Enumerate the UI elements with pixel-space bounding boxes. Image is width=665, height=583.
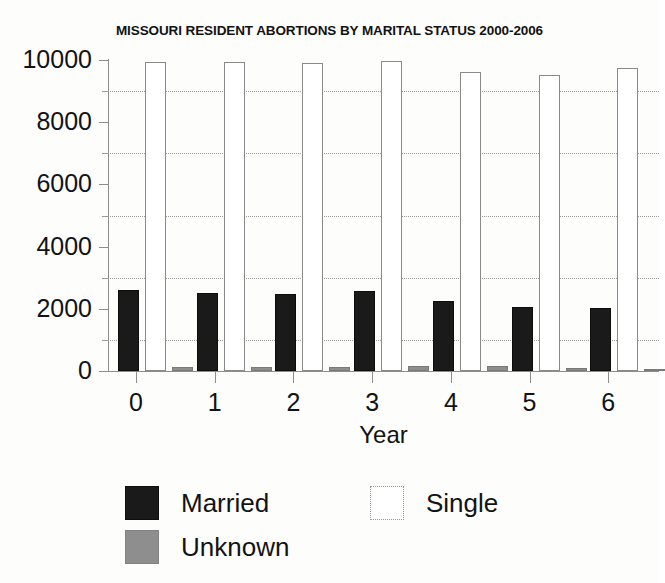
bar-married-year-6 [590, 308, 611, 371]
bar-unknown-year-6 [644, 369, 665, 371]
x-axis-tick [372, 372, 373, 383]
bar-single-year-4 [460, 72, 481, 371]
bar-unknown-year-5 [566, 368, 587, 371]
y-axis-tick-labels: 0200040006000800010000 [0, 60, 100, 371]
bar-unknown-year-2 [329, 367, 350, 371]
y-axis-major-tick [99, 371, 108, 372]
y-axis-major-tick [99, 309, 108, 310]
legend-row: MarriedSingle [0, 486, 659, 530]
y-axis-major-tick [99, 122, 108, 123]
y-axis-major-tick [99, 60, 108, 61]
single-swatch [370, 486, 404, 520]
bar-unknown-year-1 [251, 367, 272, 371]
legend-label: Married [181, 488, 269, 518]
x-axis-tick [136, 372, 137, 383]
x-axis-tick-label: 6 [588, 388, 628, 416]
y-axis-minor-tick [102, 91, 108, 92]
y-axis-tick-label: 4000 [0, 234, 92, 259]
bar-single-year-3 [381, 61, 402, 371]
x-axis-ticks [108, 372, 659, 384]
x-axis-tick-label: 0 [116, 388, 156, 416]
x-axis-tick-label: 1 [195, 388, 235, 416]
bar-single-year-5 [539, 75, 560, 371]
legend-entry-single: Single [370, 486, 498, 520]
y-axis-major-tick [99, 247, 108, 248]
y-axis-tick-label: 6000 [0, 171, 92, 196]
x-axis-tick [451, 372, 452, 383]
bar-single-year-1 [224, 62, 245, 371]
x-axis-tick-label: 2 [273, 388, 313, 416]
y-axis-tick-label: 10000 [0, 47, 92, 72]
x-axis-title: Year [108, 421, 659, 449]
legend-row: Unknown [0, 530, 659, 574]
legend-entry-married: Married [125, 486, 269, 520]
y-axis-minor-tick [102, 216, 108, 217]
y-axis-minor-tick [102, 153, 108, 154]
bar-single-year-2 [302, 63, 323, 371]
x-axis-tick-labels: 0123456 [108, 388, 659, 420]
y-axis-tick-label: 8000 [0, 109, 92, 134]
bar-married-year-5 [512, 307, 533, 371]
married-swatch [125, 486, 159, 520]
y-axis-tick-label: 2000 [0, 296, 92, 321]
x-axis-tick [608, 372, 609, 383]
x-axis-tick [530, 372, 531, 383]
x-axis-tick [293, 372, 294, 383]
bar-married-year-4 [433, 301, 454, 371]
bar-married-year-3 [354, 291, 375, 371]
bar-married-year-2 [275, 294, 296, 371]
y-axis-tick-label: 0 [0, 358, 92, 383]
chart-legend: MarriedSingle Unknown [0, 486, 659, 578]
chart-title: MISSOURI RESIDENT ABORTIONS BY MARITAL S… [0, 23, 659, 38]
bar-single-year-6 [617, 68, 638, 371]
y-axis-major-tick [99, 184, 108, 185]
unknown-swatch [125, 530, 159, 564]
y-axis-minor-tick [102, 340, 108, 341]
bar-unknown-year-0 [172, 367, 193, 371]
legend-label: Unknown [181, 532, 289, 562]
bar-married-year-1 [197, 293, 218, 371]
x-axis-tick-label: 5 [510, 388, 550, 416]
bar-unknown-year-3 [408, 366, 429, 371]
bar-single-year-0 [145, 62, 166, 371]
x-axis-tick [215, 372, 216, 383]
x-axis-tick-label: 3 [352, 388, 392, 416]
plot-area [108, 60, 659, 371]
bar-unknown-year-4 [487, 366, 508, 371]
x-axis-tick-label: 4 [431, 388, 471, 416]
bar-married-year-0 [118, 290, 139, 371]
y-axis-minor-tick [102, 278, 108, 279]
legend-label: Single [426, 488, 498, 518]
legend-entry-unknown: Unknown [125, 530, 289, 564]
